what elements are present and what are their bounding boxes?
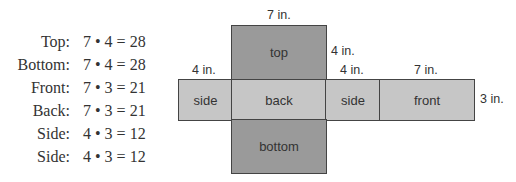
face-front: front [379,79,475,121]
equation-label: Top: [41,33,70,51]
equation-label: Bottom: [18,56,70,74]
equation-value: 4 • 3 = 12 [83,125,146,143]
equation-label: Side: [37,125,70,143]
equation-value: 7 • 3 = 21 [83,102,146,120]
face-top: top [231,25,327,80]
equation-value: 7 • 4 = 28 [83,56,146,74]
equation-value: 4 • 3 = 12 [83,148,146,166]
face-bottom: bottom [231,119,327,174]
face-side-left: side [178,79,233,121]
equation-label: Side: [37,148,70,166]
equation-label: Front: [31,79,70,97]
dimension-front-width: 7 in. [414,63,438,77]
equation-value: 7 • 3 = 21 [83,79,146,97]
equation-value: 7 • 4 = 28 [83,33,146,51]
face-back: back [231,79,327,121]
dimension-front-height: 3 in. [480,92,504,106]
dimension-side-right-width: 4 in. [340,63,364,77]
dimension-side-left-width: 4 in. [192,63,216,77]
dimension-top-height: 4 in. [331,44,355,58]
face-side-right: side [325,79,381,121]
dimension-top-width: 7 in. [267,8,291,22]
equation-label: Back: [33,102,70,120]
